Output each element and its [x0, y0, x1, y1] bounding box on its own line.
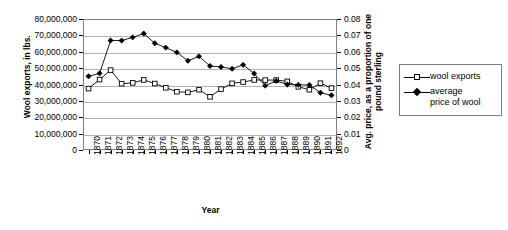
data-point-marker [208, 94, 213, 99]
x-axis-tick-mark [210, 150, 211, 154]
open-square-marker-icon [404, 73, 430, 83]
data-point-marker [97, 77, 102, 82]
data-point-marker [186, 90, 191, 95]
data-point-marker [152, 81, 157, 86]
x-axis-tick-mark [221, 150, 222, 154]
y-axis-right-tick-mark [337, 52, 341, 53]
x-axis-tick-mark [287, 150, 288, 154]
y-axis-left-tick-label: 70,000,000 [3, 31, 77, 39]
data-point-marker [141, 78, 146, 83]
legend-label-average-price-line2: price of wool [430, 97, 481, 107]
data-point-marker [130, 81, 135, 86]
data-point-marker [241, 80, 246, 85]
data-point-marker [307, 82, 312, 87]
y-axis-left-tick-label: 20,000,000 [3, 113, 77, 121]
y-axis-right-tick-mark [337, 85, 341, 86]
x-axis-tick-mark [276, 150, 277, 154]
y-axis-right-tick-mark [337, 101, 341, 102]
x-axis-tick-mark [89, 150, 90, 154]
y-axis-right-tick-label: 0.02 [344, 113, 384, 121]
y-axis-left-tick-label: 30,000,000 [3, 97, 77, 105]
y-axis-right-tick-label: 0.06 [344, 48, 384, 56]
x-axis-tick-mark [111, 150, 112, 154]
y-axis-right-tick-label: 0.04 [344, 81, 384, 89]
x-axis-tick-mark [309, 150, 310, 154]
x-axis-tick-mark [122, 150, 123, 154]
y-axis-right-tick-label: 0.05 [344, 64, 384, 72]
y-axis-right-tick-label: 0.07 [344, 31, 384, 39]
legend-label-wool-exports: wool exports [430, 71, 481, 82]
data-point-marker [318, 90, 323, 95]
data-point-marker [263, 78, 268, 83]
data-point-marker [164, 85, 169, 90]
chart-container: Wool exports, in lbs. Avg. price, as a p… [0, 0, 508, 230]
data-point-marker [329, 93, 334, 98]
legend-item-average-price[interactable]: averageprice of wool [404, 86, 497, 107]
data-point-marker [229, 66, 234, 71]
y-axis-left-tick-label: 50,000,000 [3, 64, 77, 72]
y-axis-left-tick-label: 40,000,000 [3, 81, 77, 89]
data-point-marker [218, 64, 223, 69]
y-axis-right-tick-label: 0 [344, 146, 384, 154]
data-point-marker [119, 38, 124, 43]
y-axis-left-tick-label: 0 [3, 146, 77, 154]
x-axis-tick-mark [144, 150, 145, 154]
data-point-marker [163, 45, 168, 50]
data-series-layer [83, 19, 337, 150]
filled-diamond-marker-icon [404, 88, 430, 98]
y-axis-left-tick-label: 80,000,000 [3, 15, 77, 23]
y-axis-right-tick-label: 0.08 [344, 15, 384, 23]
y-axis-left-tick-mark [79, 150, 83, 151]
data-point-marker [175, 89, 180, 94]
y-axis-right-tick-label: 0.03 [344, 97, 384, 105]
x-axis-tick-mark [188, 150, 189, 154]
y-axis-left-tick-label: 60,000,000 [3, 48, 77, 56]
y-axis-right-tick-mark [337, 35, 341, 36]
x-axis-tick-mark [243, 150, 244, 154]
data-point-marker [329, 86, 334, 91]
data-point-marker [108, 68, 113, 73]
y-axis-right-tick-mark [337, 19, 341, 20]
x-axis-tick-mark [298, 150, 299, 154]
x-axis-tick-mark [100, 150, 101, 154]
data-point-marker [86, 74, 91, 79]
y-axis-right-tick-mark [337, 68, 341, 69]
legend-label-average-price-line1: average [430, 86, 463, 96]
x-axis-tick-mark [232, 150, 233, 154]
data-point-marker [86, 86, 91, 91]
data-point-marker [219, 87, 224, 92]
series-line [89, 70, 332, 97]
x-axis-title: Year [83, 206, 338, 216]
x-axis-tick-mark [265, 150, 266, 154]
data-point-marker [252, 78, 257, 83]
x-axis-tick-mark [254, 150, 255, 154]
x-axis-tick-mark [133, 150, 134, 154]
x-axis-tick-mark [199, 150, 200, 154]
x-axis-tick-mark [177, 150, 178, 154]
series-wool-exports [86, 68, 334, 99]
chart-legend: wool exports averageprice of wool [399, 64, 502, 116]
x-axis-tick-mark [155, 150, 156, 154]
data-point-marker [130, 35, 135, 40]
data-point-marker [97, 71, 102, 76]
y-axis-right-tick-mark [337, 117, 341, 118]
data-point-marker [318, 81, 323, 86]
data-point-marker [119, 81, 124, 86]
x-axis-tick-mark [331, 150, 332, 154]
data-point-marker [108, 38, 113, 43]
y-axis-left-tick-label: 10,000,000 [3, 130, 77, 138]
x-axis-tick-mark [166, 150, 167, 154]
y-axis-right-tick-label: 0.01 [344, 130, 384, 138]
y-axis-right-tick-mark [337, 134, 341, 135]
x-axis-tick-mark [320, 150, 321, 154]
data-point-marker [197, 87, 202, 92]
data-point-marker [230, 81, 235, 86]
legend-item-wool-exports[interactable]: wool exports [404, 71, 497, 83]
legend-label-average-price: averageprice of wool [430, 86, 481, 107]
data-point-marker [307, 87, 312, 92]
